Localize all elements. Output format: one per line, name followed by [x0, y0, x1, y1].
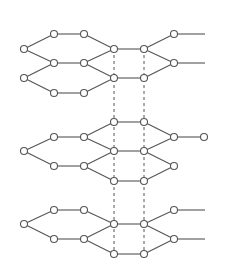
- top-layer-atom-node: [21, 46, 28, 53]
- top-layer-bond: [24, 78, 54, 93]
- middle-layer-atom-node: [171, 134, 178, 141]
- bottom-layer-atom-node: [51, 207, 58, 214]
- middle-layer-bond: [144, 151, 174, 166]
- top-layer-bond: [144, 49, 174, 63]
- top-layer-bond: [24, 34, 54, 49]
- middle-layer-atom-node: [21, 148, 28, 155]
- bottom-layer-bond: [84, 239, 114, 254]
- middle-layer-atom-node: [141, 178, 148, 185]
- middle-layer-bond: [84, 166, 114, 181]
- middle-layer-atom-node: [201, 134, 208, 141]
- middle-layer-bond: [24, 151, 54, 166]
- top-layer-atom-node: [141, 46, 148, 53]
- top-layer-atom-node: [21, 75, 28, 82]
- top-layer-bond: [24, 49, 54, 63]
- top-layer-bond: [84, 34, 114, 49]
- middle-layer-atom-node: [171, 163, 178, 170]
- middle-layer-atom-node: [111, 119, 118, 126]
- bottom-layer-bond: [84, 210, 114, 224]
- top-layer-bond: [84, 63, 114, 78]
- top-layer-atom-node: [81, 31, 88, 38]
- middle-layer-atom-node: [111, 148, 118, 155]
- atom-nodes: [21, 31, 208, 258]
- bottom-layer-atom-node: [51, 236, 58, 243]
- middle-layer-bond: [84, 151, 114, 166]
- bottom-layer-atom-node: [111, 251, 118, 258]
- bottom-layer-atom-node: [171, 236, 178, 243]
- bottom-layer-bond: [144, 239, 174, 254]
- middle-layer-atom-node: [81, 163, 88, 170]
- middle-layer-atom-node: [111, 178, 118, 185]
- middle-layer-bond: [144, 122, 174, 137]
- middle-layer-bond: [84, 137, 114, 151]
- middle-layer-atom-node: [141, 119, 148, 126]
- middle-layer-atom-node: [51, 163, 58, 170]
- middle-layer-atom-node: [81, 134, 88, 141]
- top-layer-atom-node: [51, 31, 58, 38]
- bottom-layer-bond: [84, 224, 114, 239]
- bottom-layer-atom-node: [111, 221, 118, 228]
- middle-layer-bond: [24, 137, 54, 151]
- bottom-layer-bond: [24, 210, 54, 224]
- bottom-layer-atom-node: [141, 221, 148, 228]
- top-layer-bond: [144, 63, 174, 78]
- top-layer-bond: [84, 78, 114, 93]
- middle-layer-atom-node: [51, 134, 58, 141]
- top-layer-atom-node: [171, 31, 178, 38]
- bottom-layer-atom-node: [81, 236, 88, 243]
- bottom-layer-atom-node: [171, 207, 178, 214]
- bottom-layer-bond: [144, 224, 174, 239]
- top-layer-atom-node: [81, 60, 88, 67]
- bottom-layer-bond: [144, 210, 174, 224]
- top-layer-atom-node: [51, 90, 58, 97]
- middle-layer-bond: [144, 137, 174, 151]
- bottom-layer-atom-node: [81, 207, 88, 214]
- top-layer-atom-node: [111, 46, 118, 53]
- bottom-layer-atom-node: [141, 251, 148, 258]
- top-layer-atom-node: [171, 60, 178, 67]
- middle-layer-bond: [84, 122, 114, 137]
- top-layer-atom-node: [111, 75, 118, 82]
- bottom-layer-bond: [24, 224, 54, 239]
- top-layer-bond: [144, 34, 174, 49]
- top-layer-atom-node: [51, 60, 58, 67]
- top-layer-atom-node: [81, 90, 88, 97]
- middle-layer-atom-node: [141, 148, 148, 155]
- hexagonal-layer-diagram: [0, 0, 228, 280]
- top-layer-bond: [84, 49, 114, 63]
- top-layer-atom-node: [141, 75, 148, 82]
- bottom-layer-atom-node: [21, 221, 28, 228]
- top-layer-bond: [24, 63, 54, 78]
- middle-layer-bond: [144, 166, 174, 181]
